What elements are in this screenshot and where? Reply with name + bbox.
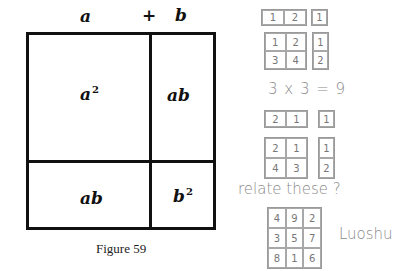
note-cell: 2 [284,10,306,25]
note-cell: 2 [265,138,286,158]
note-cell: 3 [265,51,286,69]
note-cell: 1 [312,10,327,25]
cell-ab-bottom-left: ab [80,188,103,208]
note-cell: 1 [313,33,328,51]
note-grid-2: 2 1 4 3 [264,137,308,179]
note-row-pair-2: 2 1 [264,110,308,128]
luoshu-cell: 4 [268,208,286,228]
cell-a-squared: a2 [80,84,99,104]
note-row-single-1: 1 [311,9,328,26]
horizontal-divider [26,160,216,163]
note-cell: 1 [319,111,334,127]
note-equation: 3 x 3 = 9 [268,80,346,98]
luoshu-cell: 3 [268,228,286,248]
note-cell: 1 [262,10,284,25]
figure-caption: Figure 59 [96,241,146,257]
luoshu-cell: 2 [303,208,321,228]
note-cell: 1 [286,138,307,158]
note-cell: 4 [265,158,286,178]
note-column-2: 1 2 [318,137,335,179]
note-grid-1: 1 2 3 4 [264,32,307,70]
note-cell: 1 [286,111,307,127]
label-a: a [80,6,91,26]
note-cell: 1 [265,33,286,51]
note-row-pair-1: 1 2 [261,9,307,26]
luoshu-cell: 5 [286,228,304,248]
luoshu-label: Luoshu [339,225,393,243]
note-column-1: 1 2 [312,32,329,70]
vertical-divider [149,32,152,230]
note-cell: 2 [313,51,328,69]
note-question: relate these ? [238,180,341,198]
note-cell: 2 [265,111,286,127]
label-plus: + [142,5,156,25]
luoshu-cell: 9 [286,208,304,228]
note-cell: 2 [319,158,334,178]
cell-ab-top-right: ab [167,85,190,105]
note-cell: 2 [286,33,307,51]
luoshu-cell: 6 [303,248,321,268]
note-cell: 3 [286,158,307,178]
luoshu-cell: 1 [286,248,304,268]
luoshu-cell: 7 [303,228,321,248]
luoshu-cell: 8 [268,248,286,268]
label-b: b [175,5,187,25]
cell-b-squared: b2 [173,186,193,206]
note-row-single-2: 1 [318,110,335,128]
note-cell: 1 [319,138,334,158]
luoshu-grid: 4 9 2 3 5 7 8 1 6 [267,207,322,269]
note-cell: 4 [286,51,307,69]
